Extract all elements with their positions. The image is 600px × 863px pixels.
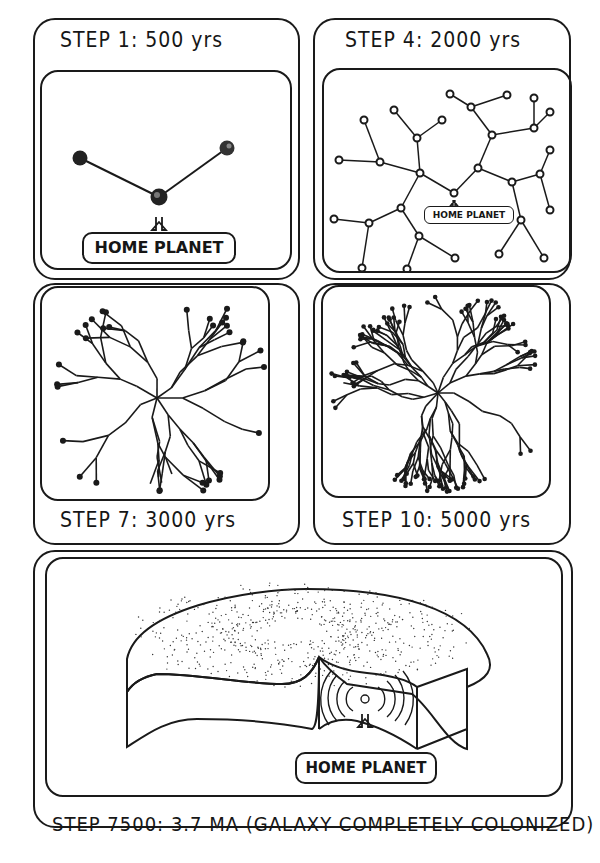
home-planet-label: HOME PLANET [82, 232, 236, 264]
panel-step-1-frame: HOME PLANET [40, 70, 292, 270]
caption-step-7500: STEP 7500: 3.7 MA (GALAXY COMPLETELY COL… [52, 812, 594, 836]
panel-step-4-frame: HOME PLANET [322, 68, 572, 273]
star-network-step-4 [324, 70, 572, 273]
home-planet-label: HOME PLANET [295, 752, 437, 784]
caption-step-7: STEP 7: 3000 yrs [60, 508, 236, 532]
caption-step-10: STEP 10: 5000 yrs [342, 508, 531, 532]
star-network-step-10 [323, 287, 551, 498]
caption-step-1: STEP 1: 500 yrs [60, 28, 223, 52]
panel-step-7-frame [40, 286, 270, 501]
panel-step-7500-frame: HOME PLANET [45, 557, 563, 797]
home-planet-label: HOME PLANET [424, 206, 514, 224]
caption-step-4: STEP 4: 2000 yrs [345, 28, 521, 52]
star-network-step-7 [42, 288, 270, 501]
panel-step-10-frame [321, 285, 551, 498]
